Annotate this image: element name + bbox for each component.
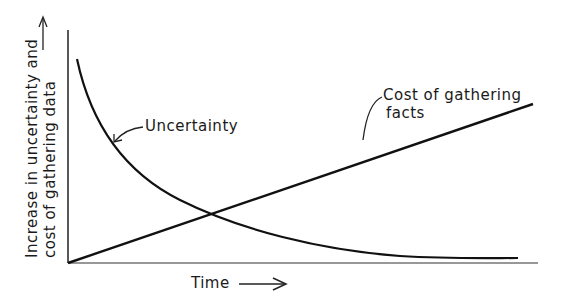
- cost-leader-line: [363, 97, 382, 140]
- chart-canvas: [0, 0, 562, 307]
- x-axis-label: Time: [191, 275, 230, 292]
- cost-label-line2: facts: [386, 105, 425, 122]
- uncertainty-label: Uncertainty: [145, 118, 238, 135]
- cost-label-line1: Cost of gathering: [383, 87, 522, 104]
- x-axis-arrow-icon: [239, 278, 286, 290]
- y-axis-label-line1: Increase in uncertainty and: [24, 39, 41, 258]
- y-axis-label-line2: cost of gathering data: [42, 81, 59, 258]
- uncertainty-leader-arrow-icon: [114, 127, 143, 142]
